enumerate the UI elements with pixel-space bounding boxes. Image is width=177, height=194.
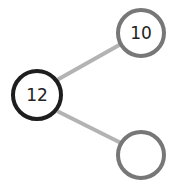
part-circle-top: 10 <box>118 10 164 56</box>
part-value-top: 10 <box>130 23 152 43</box>
connector-line-bottom <box>57 111 121 143</box>
number-bond-diagram: 12 10 <box>0 0 177 194</box>
whole-circle: 12 <box>13 71 61 119</box>
part-circle-bottom[interactable] <box>118 132 164 178</box>
connector-line-top <box>57 44 121 80</box>
whole-value: 12 <box>26 85 48 105</box>
